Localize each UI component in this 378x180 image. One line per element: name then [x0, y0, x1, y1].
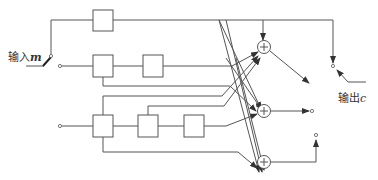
register-3-1	[93, 115, 113, 137]
switch-arm	[43, 57, 51, 66]
output-variable: c	[360, 92, 366, 105]
register-3-3	[184, 115, 204, 137]
adder-2	[258, 105, 271, 118]
adder-connections	[216, 20, 264, 172]
output-label: 输出c	[338, 89, 366, 105]
adder-1	[258, 41, 271, 54]
encoder-diagram	[0, 0, 378, 180]
adder-outputs	[270, 51, 318, 162]
branch-3	[58, 96, 222, 152]
switch-terminal-top	[49, 54, 52, 57]
branch-2	[62, 55, 222, 86]
output-label-text: 输出	[338, 92, 360, 105]
register-2-1	[93, 55, 113, 77]
register-2-2	[143, 55, 163, 77]
switch-terminal-bottom	[58, 64, 61, 67]
register-1-1	[93, 10, 113, 31]
branch-1	[51, 10, 333, 54]
input-label-text: 输入	[8, 51, 30, 64]
register-3-2	[138, 115, 158, 137]
input-variable: m	[30, 51, 42, 64]
output-switch[interactable]	[331, 20, 366, 82]
adder-3	[258, 156, 271, 169]
input-label: 输入m	[8, 48, 42, 64]
input-terminal-3	[58, 124, 61, 127]
